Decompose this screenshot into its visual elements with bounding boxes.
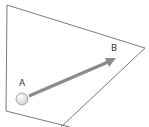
diagram-svg xyxy=(0,0,149,127)
region-outline xyxy=(6,5,145,127)
diagram-canvas: A B xyxy=(0,0,149,127)
ball-icon xyxy=(16,93,28,105)
point-a-label: A xyxy=(19,79,25,88)
point-b-label: B xyxy=(111,44,117,53)
arrow-a-to-b-icon xyxy=(29,58,116,96)
